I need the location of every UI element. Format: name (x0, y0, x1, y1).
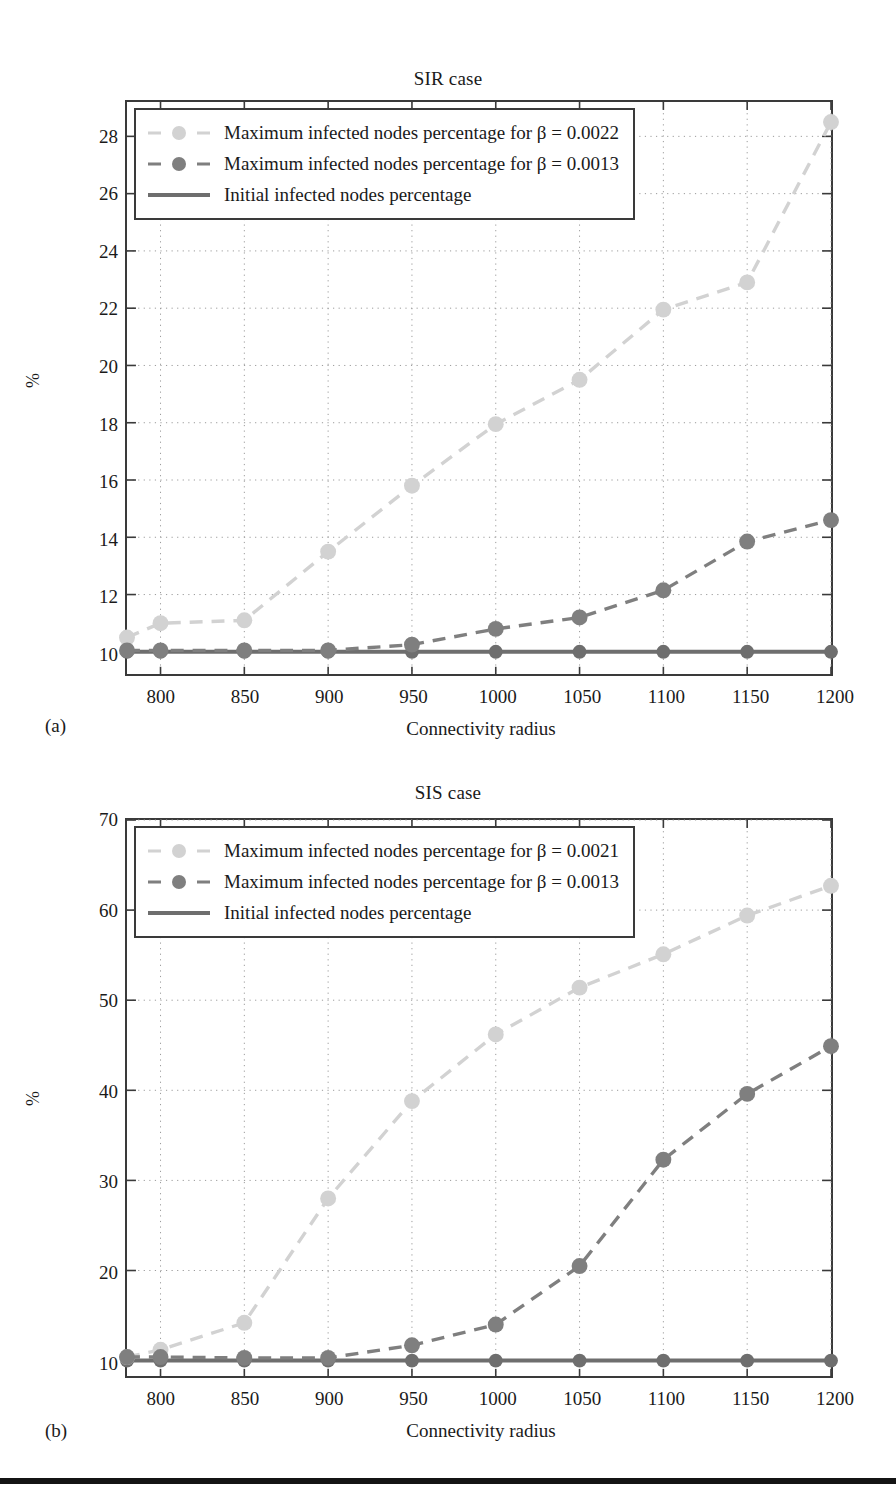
legend-row: Maximum infected nodes percentage for β … (148, 148, 619, 179)
plot-area-sir: 8008509009501000105011001150120010121416… (125, 100, 833, 676)
legend-label: Maximum infected nodes percentage for β … (224, 153, 619, 175)
legend-key-dashed-marker-icon (148, 842, 210, 860)
y-axis-tick-label: 12 (99, 586, 118, 608)
legend-label: Maximum infected nodes percentage for β … (224, 122, 619, 144)
x-axis-title-sir: Connectivity radius (127, 718, 835, 740)
y-axis-tick-label: 22 (99, 298, 118, 320)
legend-label: Maximum infected nodes percentage for β … (224, 871, 619, 893)
y-axis-tick-label: 50 (99, 990, 118, 1012)
plot-area-sis: 8008509009501000105011001150120010203040… (125, 818, 833, 1378)
legend-sis: Maximum infected nodes percentage for β … (134, 826, 635, 938)
x-axis-tick-label: 1150 (732, 1388, 769, 1410)
legend-key-dashed-marker-icon (148, 873, 210, 891)
panel-sir: SIR case % (a) 8008509009501000105011001… (0, 40, 896, 750)
legend-key-dashed-marker-icon (148, 155, 210, 173)
legend-row: Initial infected nodes percentage (148, 179, 619, 210)
y-axis-tick-label: 14 (99, 529, 118, 551)
x-axis-tick-label: 1150 (732, 686, 769, 708)
legend-key-solid-line-icon (148, 186, 210, 204)
legend-row: Maximum infected nodes percentage for β … (148, 866, 619, 897)
x-axis-tick-label: 1000 (479, 1388, 517, 1410)
x-axis-tick-label: 900 (315, 1388, 344, 1410)
page-bottom-rule (0, 1478, 896, 1484)
subplot-label-a: (a) (45, 715, 66, 737)
panel-title-sir: SIR case (0, 68, 896, 90)
y-axis-tick-label: 10 (99, 644, 118, 666)
y-axis-tick-label: 20 (99, 356, 118, 378)
y-axis-tick-label: 28 (99, 126, 118, 148)
x-axis-tick-label: 1100 (648, 1388, 685, 1410)
y-axis-tick-label: 60 (99, 900, 118, 922)
legend-label: Maximum infected nodes percentage for β … (224, 840, 619, 862)
y-axis-tick-label: 24 (99, 241, 118, 263)
y-axis-tick-label: 10 (99, 1353, 118, 1375)
x-axis-tick-label: 1200 (816, 1388, 854, 1410)
y-axis-tick-label: 18 (99, 414, 118, 436)
x-axis-tick-label: 950 (399, 1388, 428, 1410)
x-axis-tick-label: 1000 (479, 686, 517, 708)
subplot-label-b: (b) (45, 1420, 67, 1442)
legend-label: Initial infected nodes percentage (224, 184, 471, 206)
figure-epidemic-spread: SIR case % (a) 8008509009501000105011001… (0, 0, 896, 1505)
x-axis-tick-label: 950 (399, 686, 428, 708)
x-axis-tick-label: 900 (315, 686, 344, 708)
legend-row: Maximum infected nodes percentage for β … (148, 835, 619, 866)
legend-key-solid-line-icon (148, 904, 210, 922)
y-axis-title-sir: % (23, 373, 44, 388)
y-axis-tick-label: 20 (99, 1262, 118, 1284)
legend-row: Maximum infected nodes percentage for β … (148, 117, 619, 148)
y-axis-tick-label: 26 (99, 183, 118, 205)
legend-label: Initial infected nodes percentage (224, 902, 471, 924)
x-axis-tick-label: 800 (146, 686, 175, 708)
y-axis-tick-label: 70 (99, 809, 118, 831)
x-axis-tick-label: 1100 (648, 686, 685, 708)
panel-title-sis: SIS case (0, 782, 896, 804)
y-axis-tick-label: 16 (99, 471, 118, 493)
x-axis-tick-label: 1200 (816, 686, 854, 708)
x-axis-tick-label: 800 (146, 1388, 175, 1410)
panel-sis: SIS case % (b) 8008509009501000105011001… (0, 760, 896, 1460)
x-axis-tick-label: 850 (231, 1388, 260, 1410)
y-axis-tick-label: 40 (99, 1081, 118, 1103)
x-axis-tick-label: 1050 (563, 1388, 601, 1410)
legend-row: Initial infected nodes percentage (148, 897, 619, 928)
y-axis-tick-label: 30 (99, 1171, 118, 1193)
x-axis-tick-label: 1050 (563, 686, 601, 708)
legend-sir: Maximum infected nodes percentage for β … (134, 108, 635, 220)
y-axis-title-sis: % (23, 1091, 44, 1106)
x-axis-title-sis: Connectivity radius (127, 1420, 835, 1442)
x-axis-tick-label: 850 (231, 686, 260, 708)
legend-key-dashed-marker-icon (148, 124, 210, 142)
